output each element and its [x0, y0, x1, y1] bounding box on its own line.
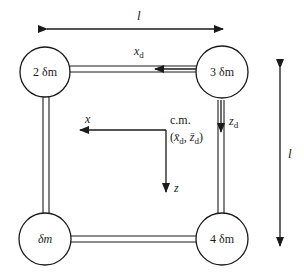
mass-4-label: 4 δm	[210, 232, 235, 246]
mass-3: 3 δm	[196, 46, 248, 98]
mass-4: 4 δm	[196, 213, 248, 265]
mass-1: δm	[19, 213, 71, 265]
mass-2-label: 2 δm	[33, 65, 58, 79]
rigid-body-diagram: l l xd zd x z c.m. (x̄d, z̄d)	[0, 0, 304, 278]
cm-label: c.m.	[170, 113, 191, 127]
horizontal-dimension-label: l	[137, 8, 141, 23]
body-z-axis-label: z	[173, 181, 179, 195]
mass-3-label: 3 δm	[210, 65, 235, 79]
rod-left	[43, 97, 49, 213]
rod-bottom	[71, 236, 196, 242]
xd-axis-label: xd	[133, 44, 144, 60]
zd-axis-label: zd	[228, 114, 239, 130]
mass-1-label: δm	[38, 232, 53, 246]
body-x-axis-label: x	[84, 112, 91, 126]
vertical-dimension-label: l	[288, 146, 292, 161]
mass-2: 2 δm	[20, 47, 70, 97]
cm-coordinates: (x̄d, z̄d)	[170, 130, 203, 146]
